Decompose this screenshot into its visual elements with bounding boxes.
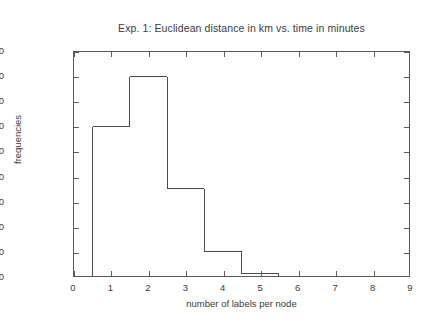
y-tick-label: 250000 [0, 145, 4, 156]
chart-title: Exp. 1: Euclidean distance in km vs. tim… [73, 22, 410, 34]
x-tick-bottom [74, 271, 75, 276]
x-tick-bottom [186, 271, 187, 276]
x-tick-label: 6 [283, 282, 313, 293]
x-tick-bottom [149, 271, 150, 276]
x-tick-top [74, 52, 75, 57]
y-tick-left [74, 253, 79, 254]
y-tick-left [74, 203, 79, 204]
x-tick-label: 4 [208, 282, 238, 293]
x-tick-label: 3 [170, 282, 200, 293]
y-tick-left [74, 127, 79, 128]
y-tick-label: 50000 [0, 246, 4, 257]
y-tick-right [404, 102, 409, 103]
y-tick-right [404, 253, 409, 254]
plot-area [73, 51, 410, 277]
y-tick-label: 150000 [0, 196, 4, 207]
x-tick-bottom [336, 271, 337, 276]
y-tick-right [404, 178, 409, 179]
x-axis-title: number of labels per node [73, 298, 410, 309]
y-tick-right [404, 228, 409, 229]
x-tick-label: 0 [58, 282, 88, 293]
histogram-outline [74, 77, 409, 276]
y-tick-left [74, 152, 79, 153]
chart-figure: Exp. 1: Euclidean distance in km vs. tim… [0, 0, 429, 327]
x-tick-top [186, 52, 187, 57]
x-tick-top [261, 52, 262, 57]
x-tick-top [374, 52, 375, 57]
y-tick-left [74, 228, 79, 229]
x-tick-label: 9 [395, 282, 425, 293]
x-tick-label: 7 [320, 282, 350, 293]
y-tick-right [404, 127, 409, 128]
x-tick-top [336, 52, 337, 57]
y-tick-right [404, 52, 409, 53]
x-tick-top [111, 52, 112, 57]
y-tick-label: 350000 [0, 95, 4, 106]
x-tick-top [224, 52, 225, 57]
x-tick-label: 2 [133, 282, 163, 293]
x-tick-label: 5 [245, 282, 275, 293]
x-tick-label: 1 [95, 282, 125, 293]
x-tick-label: 8 [358, 282, 388, 293]
y-tick-label: 0 [0, 271, 4, 282]
y-tick-right [404, 152, 409, 153]
y-tick-right [404, 203, 409, 204]
y-tick-left [74, 178, 79, 179]
x-tick-bottom [374, 271, 375, 276]
y-tick-left [74, 77, 79, 78]
y-tick-label: 300000 [0, 120, 4, 131]
x-tick-bottom [299, 271, 300, 276]
y-tick-left [74, 102, 79, 103]
y-tick-label: 400000 [0, 70, 4, 81]
x-tick-top [299, 52, 300, 57]
histogram-series [74, 52, 409, 276]
y-tick-label: 450000 [0, 45, 4, 56]
x-tick-bottom [224, 271, 225, 276]
x-tick-top [149, 52, 150, 57]
x-tick-bottom [261, 271, 262, 276]
y-tick-label: 100000 [0, 221, 4, 232]
y-tick-label: 200000 [0, 171, 4, 182]
x-tick-bottom [111, 271, 112, 276]
y-tick-right [404, 77, 409, 78]
y-axis-title: frequencies [12, 115, 23, 164]
